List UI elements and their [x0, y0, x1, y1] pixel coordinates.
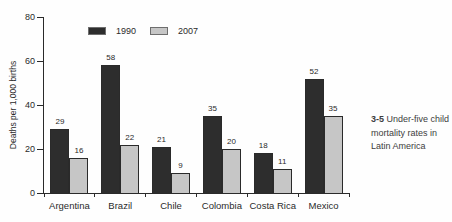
bar-2007-colombia — [222, 149, 241, 193]
y-tick-0 — [37, 193, 43, 194]
category-label-costa-rica: Costa Rica — [247, 200, 298, 211]
value-label-1990-costa-rica: 18 — [259, 141, 268, 151]
x-tick-4 — [247, 193, 248, 197]
x-tick-6 — [349, 193, 350, 197]
y-tick-40 — [37, 105, 43, 106]
x-tick-5 — [298, 193, 299, 197]
bar-group-chile: 219Chile — [146, 17, 197, 193]
y-tick-60 — [37, 61, 43, 62]
bar-1990-colombia — [203, 116, 222, 193]
barwrap-1990: 21 — [152, 17, 171, 193]
value-label-2007-colombia: 20 — [227, 137, 236, 147]
figure-3-5: Deaths per 1,000 births 1990 2007 2916Ar… — [0, 0, 452, 222]
bar-group-costa-rica: 1811Costa Rica — [247, 17, 298, 193]
figure-caption: 3-5 Under-five child mortality rates in … — [371, 113, 452, 154]
y-axis-title: Deaths per 1,000 births — [6, 17, 20, 193]
barwrap-1990: 52 — [305, 17, 324, 193]
bar-1990-chile — [152, 147, 171, 193]
category-label-mexico: Mexico — [298, 200, 349, 211]
value-label-1990-mexico: 52 — [310, 67, 319, 77]
bar-group-brazil: 5822Brazil — [95, 17, 146, 193]
bar-2007-argentina — [69, 158, 88, 193]
bar-1990-mexico — [305, 79, 324, 193]
y-tick-20 — [37, 149, 43, 150]
bar-2007-chile — [171, 173, 190, 193]
bar-1990-costa-rica — [254, 153, 273, 193]
barwrap-2007: 35 — [324, 17, 343, 193]
y-tick-label-40: 40 — [25, 100, 35, 110]
bar-group-mexico: 5235Mexico — [298, 17, 349, 193]
bar-1990-argentina — [50, 129, 69, 193]
value-label-1990-argentina: 29 — [55, 117, 64, 127]
category-label-chile: Chile — [146, 200, 197, 211]
y-tick-label-80: 80 — [25, 12, 35, 22]
y-tick-label-60: 60 — [25, 56, 35, 66]
bar-groups: 2916Argentina5822Brazil219Chile3520Colom… — [44, 17, 349, 193]
x-tick-1 — [94, 193, 95, 197]
bar-group-colombia: 3520Colombia — [196, 17, 247, 193]
bar-1990-brazil — [101, 65, 120, 193]
x-tick-0 — [44, 193, 45, 197]
category-label-colombia: Colombia — [196, 200, 247, 211]
barwrap-1990: 18 — [254, 17, 273, 193]
value-label-2007-costa-rica: 11 — [278, 157, 286, 167]
value-label-1990-chile: 21 — [157, 135, 166, 145]
barwrap-1990: 35 — [203, 17, 222, 193]
value-label-1990-brazil: 58 — [106, 53, 115, 63]
bar-2007-costa-rica — [273, 169, 292, 193]
barwrap-1990: 29 — [50, 17, 69, 193]
y-tick-80 — [37, 17, 43, 18]
bar-2007-mexico — [324, 116, 343, 193]
y-tick-label-0: 0 — [30, 188, 35, 198]
bar-2007-brazil — [120, 145, 139, 193]
barwrap-2007: 16 — [69, 17, 88, 193]
barwrap-1990: 58 — [101, 17, 120, 193]
barwrap-2007: 22 — [120, 17, 139, 193]
bar-group-argentina: 2916Argentina — [44, 17, 95, 193]
y-axis-title-text: Deaths per 1,000 births — [8, 61, 18, 149]
barwrap-2007: 11 — [273, 17, 292, 193]
value-label-2007-brazil: 22 — [125, 133, 134, 143]
category-label-brazil: Brazil — [95, 200, 146, 211]
value-label-2007-argentina: 16 — [74, 146, 83, 156]
barwrap-2007: 9 — [171, 17, 190, 193]
value-label-1990-colombia: 35 — [208, 104, 217, 114]
value-label-2007-chile: 9 — [178, 161, 182, 171]
barwrap-2007: 20 — [222, 17, 241, 193]
x-tick-2 — [145, 193, 146, 197]
bar-chart-plot-area: 2916Argentina5822Brazil219Chile3520Colom… — [43, 17, 349, 194]
x-tick-3 — [196, 193, 197, 197]
figure-number: 3-5 — [371, 114, 384, 124]
y-tick-label-20: 20 — [25, 144, 35, 154]
value-label-2007-mexico: 35 — [329, 104, 338, 114]
category-label-argentina: Argentina — [44, 200, 95, 211]
